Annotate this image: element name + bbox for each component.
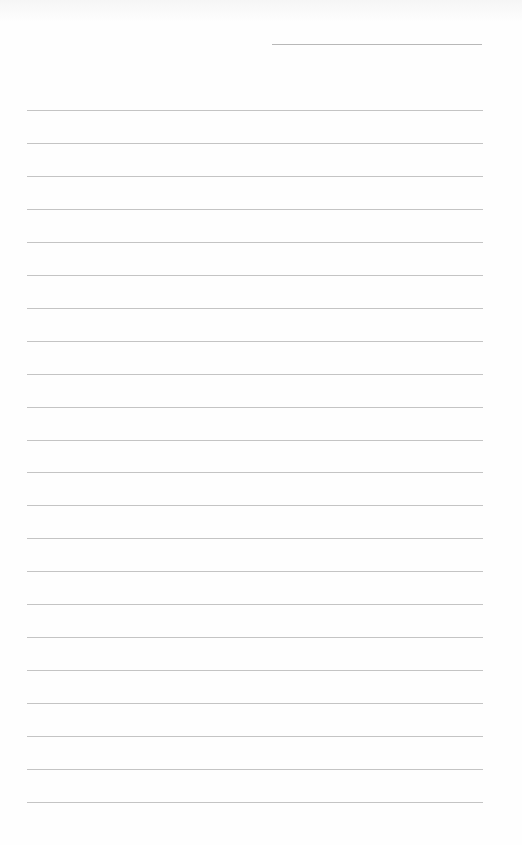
ruled-line [27, 176, 483, 177]
ruled-line [27, 538, 483, 539]
ruled-line [27, 440, 483, 441]
ruled-line [27, 308, 483, 309]
ruled-line [27, 637, 483, 638]
ruled-line [27, 341, 483, 342]
ruled-line [27, 374, 483, 375]
ruled-line [27, 209, 483, 210]
ruled-line [27, 275, 483, 276]
ruled-line [27, 736, 483, 737]
ruled-line [27, 143, 483, 144]
ruled-line [27, 505, 483, 506]
ruled-line [27, 472, 483, 473]
ruled-line [27, 604, 483, 605]
ruled-line [27, 242, 483, 243]
ruled-line [27, 670, 483, 671]
ruled-line [27, 769, 483, 770]
lined-page [0, 0, 522, 845]
ruled-line [27, 407, 483, 408]
ruled-line [27, 802, 483, 803]
show-through-top [0, 0, 522, 22]
ruled-line [27, 110, 483, 111]
ruled-line [27, 571, 483, 572]
ruled-line [27, 703, 483, 704]
header-field-line [272, 44, 482, 45]
